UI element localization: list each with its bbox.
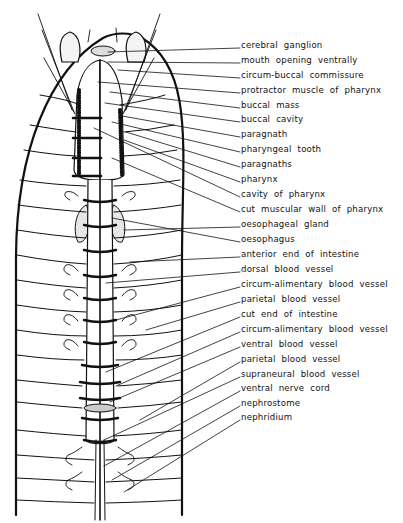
label-protractor-muscle: protractor muscle of pharynx — [241, 85, 381, 95]
label-parietal-1: parietal blood vessel — [241, 294, 340, 304]
label-ventral-blood-vessel: ventral blood vessel — [241, 339, 338, 349]
label-nephrostome: nephrostome — [241, 398, 300, 408]
label-buccal-cavity: buccal cavity — [241, 114, 303, 124]
label-paragnath: paragnath — [241, 129, 287, 139]
label-mouth-opening: mouth opening ventrally — [241, 55, 358, 65]
label-anterior-end-intestine: anterior end of intestine — [241, 249, 359, 259]
label-buccal-mass: buccal mass — [241, 100, 300, 110]
label-nephridium: nephridium — [241, 412, 292, 422]
label-cut-muscular-wall: cut muscular wall of pharynx — [241, 204, 383, 214]
label-circum-buccal-commissure: circum-buccal commissure — [241, 70, 364, 80]
palp-right — [126, 32, 146, 62]
label-pharyngeal-tooth: pharyngeal tooth — [241, 144, 321, 154]
label-cut-end-intestine: cut end of intestine — [241, 309, 338, 319]
label-parietal-2: parietal blood vessel — [241, 354, 340, 364]
label-pharynx: pharynx — [241, 174, 278, 184]
label-supraneural: supraneural blood vessel — [241, 369, 360, 379]
label-paragnaths: paragnaths — [241, 159, 292, 169]
label-circum-alimentary-1: circum-alimentary blood vessel — [241, 279, 388, 289]
label-oesophageal-gland: oesophageal gland — [241, 219, 329, 229]
label-dorsal-blood-vessel: dorsal blood vessel — [241, 264, 333, 274]
label-ventral-nerve-cord: ventral nerve cord — [241, 383, 330, 393]
label-oesophagus: oesophagus — [241, 234, 295, 244]
label-circum-alimentary-2: circum-alimentary blood vessel — [241, 324, 388, 334]
palp-left — [60, 32, 80, 62]
label-cerebral-ganglion: cerebral ganglion — [241, 40, 323, 50]
label-cavity-of-pharynx: cavity of pharynx — [241, 189, 325, 199]
